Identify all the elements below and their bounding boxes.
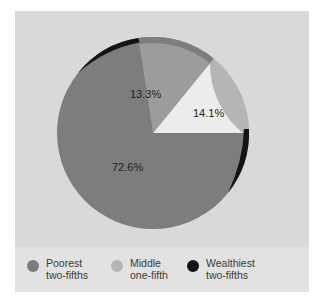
legend-item-poorest: Poorest two-fifths	[27, 258, 88, 281]
swatch-middle-icon	[111, 260, 123, 272]
legend: Poorest two-fifths Middle one-fifth Weal…	[15, 247, 309, 292]
label-13-3: 13.3%	[130, 88, 161, 100]
legend-item-middle: Middle one-fifth	[111, 258, 168, 281]
swatch-wealthiest-icon	[187, 260, 199, 272]
legend-label-middle: Middle one-fifth	[130, 258, 168, 281]
pie-chart	[15, 11, 309, 247]
figure-panel: 13.3% 14.1% 72.6% Poorest two-fifths Mid…	[15, 11, 309, 292]
swatch-poorest-icon	[27, 260, 39, 272]
label-14-1: 14.1%	[193, 107, 224, 119]
legend-label-wealthiest: Wealthiest two-fifths	[206, 258, 255, 281]
chart-area: 13.3% 14.1% 72.6%	[15, 11, 309, 247]
legend-item-wealthiest: Wealthiest two-fifths	[187, 258, 255, 281]
legend-label-poorest: Poorest two-fifths	[46, 258, 88, 281]
label-72-6: 72.6%	[112, 161, 143, 173]
